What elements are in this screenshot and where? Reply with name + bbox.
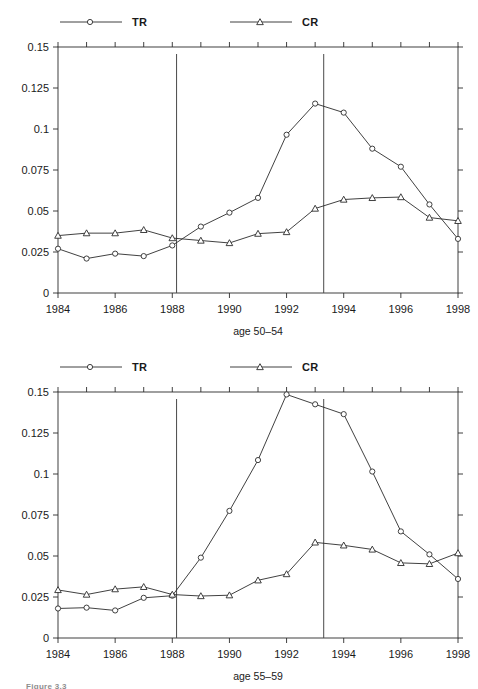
x-tick-label: 1984 — [46, 648, 70, 660]
x-tick-label: 1984 — [46, 303, 70, 315]
data-point-circle — [198, 555, 203, 560]
data-point-circle — [341, 412, 346, 417]
data-point-circle — [87, 364, 92, 369]
data-point-circle — [341, 110, 346, 115]
series-CR — [55, 539, 462, 599]
legend-label: TR — [132, 16, 147, 28]
y-tick-label: 0 — [43, 287, 49, 299]
y-tick-label: 0.1 — [34, 123, 49, 135]
y-tick-label: 0.075 — [21, 164, 49, 176]
legend-label: CR — [302, 16, 318, 28]
data-point-circle — [113, 251, 118, 256]
data-point-circle — [141, 254, 146, 259]
data-point-triangle — [55, 587, 62, 593]
data-point-circle — [427, 202, 432, 207]
chart-panel-age-50-54: 00.0250.050.0750.10.1250.151984198619881… — [0, 0, 478, 344]
x-tick-label: 1990 — [217, 648, 241, 660]
y-tick-label: 0.125 — [21, 82, 49, 94]
data-point-circle — [427, 552, 432, 557]
legend-entry-tr[interactable]: TR — [60, 361, 147, 373]
figure-container: 00.0250.050.0750.10.1250.151984198619881… — [0, 0, 478, 689]
data-point-triangle — [455, 550, 462, 556]
y-tick-label: 0.15 — [28, 386, 49, 398]
data-point-circle — [455, 576, 460, 581]
y-tick-label: 0.075 — [21, 509, 49, 521]
x-tick-label: 1996 — [389, 648, 413, 660]
x-tick-label: 1996 — [389, 303, 413, 315]
legend-entry-cr[interactable]: CR — [230, 16, 318, 28]
data-point-circle — [313, 101, 318, 106]
x-tick-label: 1992 — [274, 303, 298, 315]
figure-caption: Figure 3.3 — [26, 681, 67, 689]
chart-svg-age-50-54: 00.0250.050.0750.10.1250.151984198619881… — [0, 0, 478, 344]
data-point-circle — [284, 132, 289, 137]
plot-frame — [58, 392, 458, 638]
legend-entry-tr[interactable]: TR — [60, 16, 147, 28]
y-tick-label: 0.025 — [21, 591, 49, 603]
legend-entry-cr[interactable]: CR — [230, 361, 318, 373]
x-tick-label: 1990 — [217, 303, 241, 315]
data-point-triangle — [140, 227, 147, 233]
series-CR — [55, 194, 462, 246]
y-tick-label: 0.15 — [28, 41, 49, 53]
data-point-circle — [255, 195, 260, 200]
data-point-circle — [227, 210, 232, 215]
plot-frame — [58, 47, 458, 293]
data-point-circle — [84, 605, 89, 610]
x-tick-label: 1994 — [331, 303, 355, 315]
data-point-circle — [455, 236, 460, 241]
x-axis-title: age 50–54 — [233, 325, 283, 337]
y-tick-label: 0.05 — [28, 205, 49, 217]
data-point-circle — [84, 256, 89, 261]
x-tick-label: 1998 — [446, 303, 470, 315]
y-tick-label: 0.1 — [34, 468, 49, 480]
legend-label: CR — [302, 361, 318, 373]
x-tick-label: 1988 — [160, 648, 184, 660]
x-tick-label: 1986 — [103, 648, 127, 660]
data-point-circle — [370, 469, 375, 474]
data-point-triangle — [426, 214, 433, 220]
data-point-circle — [398, 529, 403, 534]
legend-label: TR — [132, 361, 147, 373]
data-point-triangle — [312, 539, 319, 545]
data-point-circle — [141, 595, 146, 600]
x-tick-label: 1988 — [160, 303, 184, 315]
data-point-circle — [55, 606, 60, 611]
y-tick-label: 0.125 — [21, 427, 49, 439]
data-point-circle — [255, 457, 260, 462]
data-point-circle — [87, 19, 92, 24]
data-point-triangle — [140, 584, 147, 590]
data-point-circle — [55, 246, 60, 251]
x-tick-label: 1994 — [331, 648, 355, 660]
y-tick-label: 0.025 — [21, 246, 49, 258]
data-point-circle — [284, 392, 289, 397]
chart-panel-age-55-59: 00.0250.050.0750.10.1250.151984198619881… — [0, 345, 478, 689]
data-point-circle — [398, 164, 403, 169]
data-point-circle — [227, 508, 232, 513]
x-axis-title: age 55–59 — [233, 670, 283, 682]
x-tick-label: 1986 — [103, 303, 127, 315]
chart-svg-age-55-59: 00.0250.050.0750.10.1250.151984198619881… — [0, 345, 478, 689]
y-tick-label: 0 — [43, 632, 49, 644]
x-tick-label: 1998 — [446, 648, 470, 660]
data-point-circle — [113, 608, 118, 613]
data-point-circle — [198, 224, 203, 229]
series-line — [58, 542, 458, 596]
data-point-circle — [170, 243, 175, 248]
series-TR — [55, 101, 460, 261]
data-point-circle — [370, 146, 375, 151]
y-tick-label: 0.05 — [28, 550, 49, 562]
data-point-circle — [313, 402, 318, 407]
x-tick-label: 1992 — [274, 648, 298, 660]
